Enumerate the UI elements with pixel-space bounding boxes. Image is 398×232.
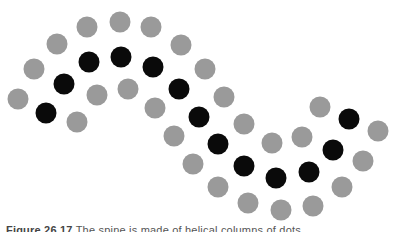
gray-dot — [77, 17, 98, 38]
gray-dot — [118, 79, 139, 100]
gray-dot — [183, 154, 204, 175]
gray-dot — [262, 133, 283, 154]
black-dot — [266, 168, 287, 189]
black-dot — [189, 107, 210, 128]
dot-wave-figure — [0, 0, 398, 232]
gray-dot — [310, 97, 331, 118]
black-dot — [234, 156, 255, 177]
gray-dot — [164, 126, 185, 147]
black-dot — [143, 57, 164, 78]
black-dot — [36, 103, 57, 124]
black-dot — [339, 109, 360, 130]
gray-dot — [368, 121, 389, 142]
gray-dot — [87, 85, 108, 106]
black-dot — [111, 47, 132, 68]
black-dot — [79, 52, 100, 73]
gray-dot — [47, 34, 68, 55]
black-dot — [323, 140, 344, 161]
black-dot — [299, 162, 320, 183]
gray-dot — [171, 35, 192, 56]
figure-label: Figure 26.17 — [6, 224, 73, 232]
gray-dot — [353, 151, 374, 172]
gray-dot — [303, 196, 324, 217]
black-dot — [208, 134, 229, 155]
gray-dot — [208, 177, 229, 198]
gray-dot — [141, 17, 162, 38]
gray-dot — [292, 127, 313, 148]
gray-dot — [332, 177, 353, 198]
figure-caption: Figure 26.17 The spine is made of helica… — [6, 224, 304, 232]
black-dot — [169, 79, 190, 100]
caption-text: The spine is made of helical columns of … — [76, 224, 305, 232]
gray-dot — [67, 112, 88, 133]
gray-dot — [195, 59, 216, 80]
black-dot — [54, 74, 75, 95]
gray-dot — [24, 59, 45, 80]
gray-dot — [145, 98, 166, 119]
gray-dot — [8, 89, 29, 110]
gray-dot — [271, 200, 292, 221]
gray-dot — [110, 12, 131, 33]
gray-dot — [214, 87, 235, 108]
gray-dot — [238, 193, 259, 214]
gray-dot — [234, 114, 255, 135]
